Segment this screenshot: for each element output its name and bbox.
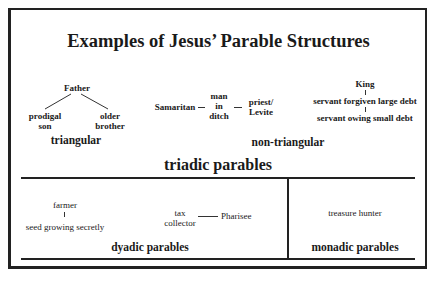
connector-man-priest bbox=[234, 107, 242, 108]
node-man-line3: ditch bbox=[204, 111, 234, 121]
node-older-brother: older brother bbox=[85, 111, 135, 131]
node-tax-collector: tax collector bbox=[160, 208, 200, 228]
node-seed-growing: seed growing secretly bbox=[20, 222, 110, 232]
node-treasure-hunter: treasure hunter bbox=[300, 208, 410, 218]
label-triangular: triangular bbox=[36, 134, 116, 146]
node-prodigal-son: prodigal son bbox=[20, 111, 70, 131]
label-dyadic-parables: dyadic parables bbox=[90, 241, 210, 253]
node-man-line1: man bbox=[204, 91, 234, 101]
connector-king-servant bbox=[365, 90, 366, 95]
node-man-in-ditch: man in ditch bbox=[204, 91, 234, 121]
node-servant-forgiven: servant forgiven large debt bbox=[310, 96, 420, 106]
divider-vertical bbox=[287, 177, 289, 260]
label-monadic-parables: monadic parables bbox=[300, 241, 410, 253]
connector-servant-servant bbox=[365, 107, 366, 112]
node-older-brother-line2: brother bbox=[85, 121, 135, 131]
connector-farmer-seed bbox=[64, 212, 65, 217]
node-older-brother-line1: older bbox=[85, 111, 135, 121]
node-priest-line2: Levite bbox=[243, 107, 279, 117]
node-priest-line1: priest/ bbox=[243, 97, 279, 107]
node-samaritan: Samaritan bbox=[150, 102, 200, 112]
node-king: King bbox=[340, 79, 390, 89]
node-servant-owing: servant owing small debt bbox=[310, 113, 420, 123]
node-prodigal-son-line1: prodigal bbox=[20, 111, 70, 121]
node-tax-line1: tax bbox=[160, 208, 200, 218]
node-tax-line2: collector bbox=[160, 218, 200, 228]
node-pharisee: Pharisee bbox=[221, 211, 261, 221]
node-priest-levite: priest/ Levite bbox=[243, 97, 279, 117]
divider-top bbox=[21, 177, 415, 179]
label-non-triangular: non-triangular bbox=[238, 136, 338, 148]
label-triadic-parables: triadic parables bbox=[118, 156, 318, 174]
connector-tax-pharisee bbox=[198, 216, 218, 217]
node-man-line2: in bbox=[204, 101, 234, 111]
node-prodigal-son-line2: son bbox=[20, 121, 70, 131]
divider-bottom bbox=[21, 258, 415, 260]
node-farmer: farmer bbox=[40, 200, 90, 210]
